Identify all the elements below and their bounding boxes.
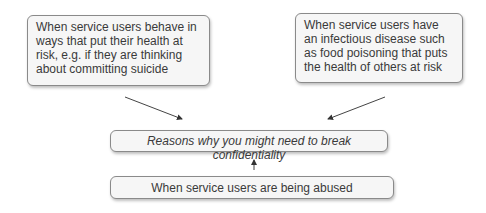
connector-arrows <box>0 0 486 213</box>
arrow-icon <box>125 97 182 119</box>
arrow-icon <box>328 97 385 119</box>
